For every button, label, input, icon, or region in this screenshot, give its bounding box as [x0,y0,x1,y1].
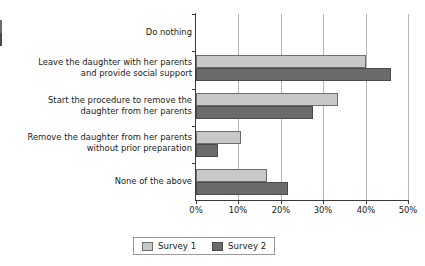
bar-survey1-1 [196,55,366,68]
legend-item-survey1: Survey 1 [142,241,196,251]
x-tick-40 [366,200,367,204]
category-label-1: Leave the daughter with her parents and … [6,57,196,78]
y-tick-3 [192,126,196,127]
category-label-4-line-0: None of the above [6,176,192,187]
bar-survey1-4 [196,169,267,182]
legend-swatch-survey2-icon [212,242,223,251]
gridline-50 [408,14,409,200]
x-tick-0 [196,200,197,204]
x-tick-10 [238,200,239,204]
category-label-4: None of the above [6,176,196,187]
x-tick-label-1: 10% [218,205,258,215]
x-tick-20 [281,200,282,204]
gridline-40 [366,14,367,200]
legend-label-survey1: Survey 1 [158,241,196,251]
chart-legend: Survey 1 Survey 2 [133,237,275,255]
gridline-30 [323,14,324,200]
bar-survey2-0 [0,33,2,46]
bar-chart: Do nothing Leave the daughter with her p… [0,0,425,266]
bar-group-0 [0,20,212,52]
legend-label-survey2: Survey 2 [228,241,266,251]
x-tick-label-3: 30% [303,205,343,215]
x-axis-line [195,200,409,201]
x-tick-label-0: 0% [176,205,216,215]
bar-survey1-2 [196,93,338,106]
category-label-3-line-0: Remove the daughter from her parents [6,132,192,143]
category-label-1-line-0: Leave the daughter with her parents [6,57,192,68]
x-tick-label-4: 40% [346,205,386,215]
y-tick-0 [192,14,196,15]
bar-survey1-0 [0,20,2,33]
x-tick-30 [323,200,324,204]
bar-survey2-2 [196,106,313,119]
x-tick-label-2: 20% [261,205,301,215]
bar-survey2-1 [196,68,391,81]
category-label-2-line-0: Start the procedure to remove the [6,95,192,106]
category-label-3: Remove the daughter from her parents wit… [6,132,196,153]
category-label-1-line-1: and provide social support [6,68,192,79]
category-label-2-line-1: daughter from her parents [6,106,192,117]
category-label-2: Start the procedure to remove the daught… [6,95,196,116]
bar-survey1-3 [196,131,241,144]
category-label-3-line-1: without prior preparation [6,143,192,154]
legend-swatch-survey1-icon [142,242,153,251]
bar-survey2-4 [196,182,288,195]
x-tick-label-5: 50% [388,205,425,215]
x-tick-50 [408,200,409,204]
y-tick-4 [192,163,196,164]
bar-survey2-3 [196,144,218,157]
y-tick-2 [192,89,196,90]
legend-item-survey2: Survey 2 [212,241,266,251]
